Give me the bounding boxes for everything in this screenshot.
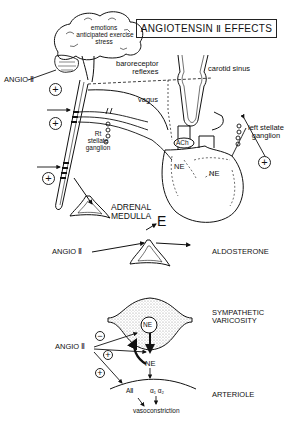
minus-icon: − xyxy=(95,331,105,341)
plus-icon: + xyxy=(42,172,55,185)
ne-label-heart-1: NE xyxy=(174,163,184,171)
left-stellate-label: left stellate ganglion xyxy=(248,124,284,140)
varicosity-label: SYMPATHETIC VARICOSITY xyxy=(212,309,264,325)
adrenal-medulla-label: ADRENAL MEDULLA xyxy=(111,203,151,221)
ach-label: ACh xyxy=(176,140,189,147)
angio-ii-label-top: ANGIO Ⅱ xyxy=(4,76,34,84)
varicosity-line-2: VARICOSITY xyxy=(212,317,264,325)
arteriole-label: ARTERIOLE xyxy=(212,391,254,399)
vasoconstriction-label: vasoconstriction xyxy=(133,408,180,415)
vagus-label: vagus xyxy=(138,96,158,104)
aldosterone-label: ALDOSTERONE xyxy=(212,248,269,256)
rt-stellate-line-3: ganglion xyxy=(80,145,116,152)
left-stellate-line-2: ganglion xyxy=(248,132,284,140)
baroreceptor-label: baroreceptor reflexes xyxy=(116,60,159,76)
plus-icon: + xyxy=(95,368,105,378)
ne-released-label: NE xyxy=(145,360,155,368)
adrenal-gland-middle xyxy=(92,240,190,266)
epinephrine-label: E xyxy=(157,214,166,229)
angio-ii-label-bottom: ANGIO Ⅱ xyxy=(55,343,85,351)
ne-label-heart-2: NE xyxy=(209,170,219,178)
diagram-title: ANGIOTENSIN Ⅱ EFFECTS xyxy=(136,19,277,38)
rt-stellate-label: Rt stellate ganglion xyxy=(80,131,116,151)
angio-ii-label-middle: ANGIO Ⅱ xyxy=(52,248,82,256)
adrenal-line-2: MEDULLA xyxy=(111,212,151,221)
plus-icon: + xyxy=(49,83,62,96)
carotid-sinus-label: carotid sinus xyxy=(208,65,250,73)
plus-icon: + xyxy=(258,156,271,169)
baroreceptor-line-2: reflexes xyxy=(116,68,159,76)
aii-receptor-label: AⅡ xyxy=(126,388,133,395)
carotid-arteries xyxy=(178,55,208,126)
plus-icon: + xyxy=(49,117,62,130)
ne-vesicle-label: NE xyxy=(143,322,152,329)
plus-icon: + xyxy=(103,350,113,360)
alpha-receptor-label: α₁ α₂ xyxy=(150,388,164,395)
brain-label-stress: stress xyxy=(84,39,124,46)
